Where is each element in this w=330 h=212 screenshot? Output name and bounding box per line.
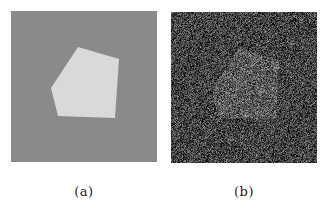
noisy-image xyxy=(171,12,317,163)
clean-image-panel xyxy=(11,11,157,162)
caption-a: (a) xyxy=(64,184,104,200)
caption-b: (b) xyxy=(224,184,264,200)
clean-image xyxy=(11,11,157,162)
figure: (a) (b) xyxy=(0,0,330,212)
noisy-image-panel xyxy=(171,12,317,163)
